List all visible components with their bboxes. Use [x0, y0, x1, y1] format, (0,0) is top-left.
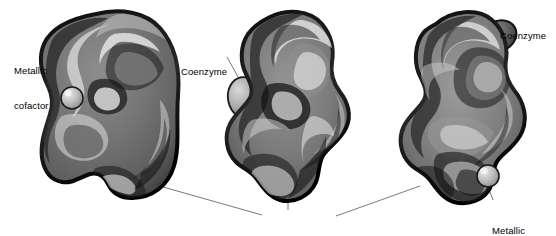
label-metallic-cofactor-left-line2: cofactor [14, 100, 49, 112]
label-apoenzymes: Apoenzymes [264, 210, 312, 236]
apoenzyme-left [41, 11, 178, 200]
label-metallic-cofactor-right: Metallic cofactor [492, 202, 527, 236]
metallic-cofactor-sphere-left [61, 87, 83, 109]
metallic-cofactor-sphere-right [477, 165, 499, 187]
label-coenzyme-middle-line1: Coenzyme [181, 66, 227, 78]
metallic-cofactor-sphere-left-highlight [64, 89, 71, 96]
label-coenzyme-right-line1: Coenzyme [500, 30, 546, 42]
leader-apoenzymes-right [336, 186, 420, 216]
enzyme-diagram [0, 0, 556, 236]
label-coenzyme-middle: Coenzyme [181, 43, 227, 101]
figure-canvas: Metallic cofactor Coenzyme Coenzyme Meta… [0, 0, 556, 236]
metallic-cofactor-sphere-right-highlight [480, 167, 487, 174]
leader-apoenzymes-left [156, 185, 262, 215]
label-metallic-cofactor-right-line1: Metallic [492, 225, 527, 236]
apoenzyme-middle [224, 12, 349, 201]
label-apoenzymes-line1: Apoenzymes [264, 233, 312, 236]
label-metallic-cofactor-left: Metallic cofactor [14, 42, 49, 134]
label-metallic-cofactor-left-line1: Metallic [14, 65, 49, 77]
label-coenzyme-right: Coenzyme [500, 7, 546, 65]
